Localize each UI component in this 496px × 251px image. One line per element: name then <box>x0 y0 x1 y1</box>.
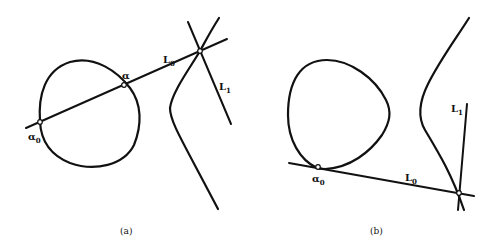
label-alpha0-b: α0 <box>312 173 325 187</box>
point-alpha-a <box>122 83 127 88</box>
label-L1-b: L1 <box>451 103 463 117</box>
line-L0-a <box>26 39 227 128</box>
label-L1-a: L1 <box>219 81 231 95</box>
caption-a: (a) <box>120 226 132 236</box>
caption-b: (b) <box>370 226 383 236</box>
point-intersection-a <box>198 49 203 54</box>
panel-a: α0 α L0 L1 (a) <box>26 18 231 236</box>
label-alpha0-a: α0 <box>28 131 41 145</box>
label-alpha-a: α <box>122 70 130 81</box>
oval-component-b <box>288 60 389 169</box>
diagram-canvas: α0 α L0 L1 (a) α0 L0 L1 (b) <box>0 0 496 251</box>
point-alpha0-b <box>316 165 321 170</box>
line-L1-a <box>188 22 231 124</box>
point-intersection-b <box>457 191 462 196</box>
point-alpha0-a <box>38 120 43 125</box>
panel-b: α0 L0 L1 (b) <box>288 18 474 236</box>
